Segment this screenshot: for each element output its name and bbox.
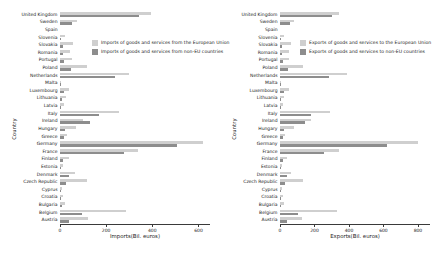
x-tick (280, 225, 281, 227)
category-label: Poland (42, 66, 57, 71)
bar-non-eu (60, 144, 177, 147)
bar-row: Finland (280, 156, 430, 164)
bar-row: Austria (280, 216, 430, 224)
bar-non-eu (60, 22, 72, 25)
category-label: Finland (261, 157, 277, 162)
category-label: Estonia (261, 165, 278, 170)
bar-row: Bulgaria (280, 201, 430, 209)
imports-x-axis: 0200400600 (60, 224, 210, 225)
category-label: Hungary (38, 127, 57, 132)
category-label: Luxembourg (29, 89, 57, 94)
bar-non-eu (280, 114, 311, 117)
bar-row: Belgium (60, 209, 210, 217)
category-label: Netherlands (250, 73, 277, 78)
x-tick (152, 225, 153, 227)
category-label: Slovenia (258, 35, 277, 40)
bar-row: Denmark (280, 171, 430, 179)
bar-row: Sweden (60, 19, 210, 27)
category-label: Italy (48, 111, 58, 116)
bar-non-eu (60, 213, 82, 216)
category-label: Greece (41, 134, 57, 139)
bar-row: Estonia (280, 163, 430, 171)
bar-non-eu (60, 98, 62, 101)
legend-label-eu-exports: Exports of goods and services to the Eur… (309, 41, 431, 46)
category-label: Spain (45, 28, 58, 33)
bar-row: Italy (60, 110, 210, 118)
category-label: Lithuania (37, 96, 58, 101)
category-label: France (263, 149, 278, 154)
bar-row: Sweden (280, 19, 430, 27)
y-axis-title-exports: Country (231, 99, 237, 159)
category-label: Croatia (41, 195, 57, 200)
category-label: Latvia (44, 104, 58, 109)
bar-row: Latvia (60, 102, 210, 110)
bar-non-eu (60, 175, 69, 178)
bar-row: Hungary (60, 125, 210, 133)
category-label: United Kingdom (241, 13, 277, 18)
legend-label-non-eu-exports: Exports of goods and services to non-EU … (309, 50, 425, 55)
bar-row: Croatia (60, 194, 210, 202)
category-label: Malta (265, 81, 277, 86)
bar-row: Hungary (280, 125, 430, 133)
bar-row: Netherlands (280, 72, 430, 80)
bar-row: Germany (280, 140, 430, 148)
bar-non-eu (60, 114, 99, 117)
bar-row: Greece (60, 133, 210, 141)
exports-chart-panel: Country United KingdomSwedenSpainSloveni… (220, 0, 439, 258)
bar-row: Austria (60, 216, 210, 224)
bar-non-eu (280, 144, 387, 147)
category-label: Ireland (42, 119, 58, 124)
bar-non-eu (60, 121, 90, 124)
bar-non-eu (280, 205, 281, 208)
bar-row: Cyprus (280, 186, 430, 194)
bar-non-eu (280, 98, 281, 101)
bar-row: United Kingdom (280, 11, 430, 19)
category-label: Austria (262, 218, 278, 223)
category-label: Bulgaria (259, 203, 278, 208)
category-label: United Kingdom (21, 13, 57, 18)
legend-entry-non-eu-imports: Imports of goods and services from non-E… (92, 49, 229, 55)
bar-row: Finland (60, 156, 210, 164)
bar-non-eu (280, 76, 329, 79)
bar-row: Netherlands (60, 72, 210, 80)
legend-entry-non-eu-exports: Exports of goods and services to non-EU … (300, 49, 431, 55)
bar-non-eu (60, 91, 64, 94)
category-label: Poland (262, 66, 277, 71)
bar-non-eu (280, 22, 290, 25)
exports-x-axis: 0200400600800 (280, 224, 430, 225)
bar-non-eu (60, 182, 66, 185)
category-label: Estonia (41, 165, 58, 170)
bar-row: France (60, 148, 210, 156)
bar-non-eu (280, 136, 283, 139)
bar-non-eu (280, 159, 283, 162)
category-label: Ireland (262, 119, 278, 124)
bar-row: Lithuania (280, 95, 430, 103)
category-label: Romania (38, 51, 58, 56)
imports-legend: Imports of goods and services from the E… (92, 40, 229, 58)
category-label: Cyprus (42, 188, 58, 193)
x-tick (349, 225, 350, 227)
bar-non-eu (280, 38, 281, 41)
bar-non-eu (280, 106, 281, 109)
legend-swatch-eu-icon (300, 40, 306, 46)
category-label: Luxembourg (249, 89, 277, 94)
x-tick (60, 225, 61, 227)
bar-non-eu (280, 190, 281, 193)
bar-non-eu (280, 53, 282, 56)
bar-non-eu (60, 152, 124, 155)
bar-row: Spain (60, 26, 210, 34)
category-label: Finland (41, 157, 57, 162)
category-label: Belgium (259, 210, 277, 215)
bar-non-eu (280, 68, 288, 71)
bar-non-eu (60, 190, 61, 193)
imports-chart-panel: Country United KingdomSwedenSpainSloveni… (0, 0, 219, 258)
bar-non-eu (60, 60, 64, 63)
category-label: Sweden (40, 20, 58, 25)
bar-non-eu (280, 15, 332, 18)
bar-non-eu (60, 197, 61, 200)
bar-non-eu (280, 60, 283, 63)
category-label: Italy (268, 111, 278, 116)
category-label: Portugal (259, 58, 278, 63)
category-label: Czech Republic (243, 180, 277, 185)
category-label: Portugal (39, 58, 58, 63)
